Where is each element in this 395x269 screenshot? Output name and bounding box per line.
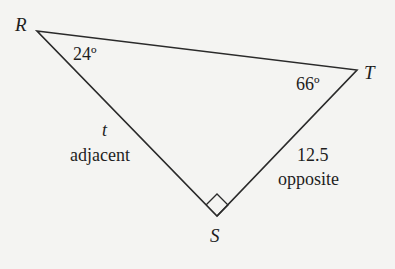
side-variable-t: t [102,120,107,141]
triangle-figure [0,0,395,269]
side-role-opposite: opposite [278,169,339,190]
angle-label-t: 66º [296,74,320,95]
right-angle-marker [206,194,228,216]
vertex-label-s: S [210,225,220,247]
side-role-adjacent: adjacent [70,145,130,166]
vertex-label-r: R [15,14,27,36]
angle-label-r: 24º [73,44,97,65]
vertex-label-t: T [364,62,375,84]
side-value-12-5: 12.5 [297,145,329,166]
